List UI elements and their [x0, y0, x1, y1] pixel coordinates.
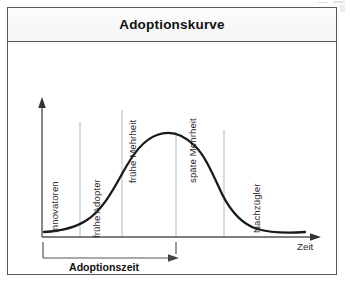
segment-label-fruehe-adopter: frühe Adopter — [91, 179, 102, 238]
adoption-curve-figure: Adoptionskurve — [0, 0, 350, 290]
y-axis — [38, 97, 46, 237]
segment-label-spaete-mehrheit: späte Mehrheit — [187, 118, 198, 183]
plot-area: Innovatoren frühe Adopter frühe Mehrheit… — [7, 42, 337, 275]
adoptionszeit-label: Adoptionszeit — [69, 261, 139, 273]
scan-artifact — [340, 5, 345, 12]
scan-artifact — [318, 2, 328, 3]
adoption-curve-path — [44, 133, 305, 233]
figure-title-box: Adoptionskurve — [7, 7, 337, 42]
x-axis-label: Zeit — [297, 241, 313, 252]
segment-label-innovatoren: Innovatoren — [49, 181, 60, 233]
scan-artifact — [333, 1, 345, 3]
adoption-curve-svg — [7, 42, 337, 275]
page-title: Adoptionskurve — [119, 17, 225, 32]
adoptionszeit-bracket — [43, 242, 179, 262]
segment-label-nachzuegler: Nachzügler — [251, 183, 262, 233]
x-axis — [42, 233, 321, 241]
segment-label-fruehe-mehrheit: frühe Mehrheit — [127, 120, 138, 183]
